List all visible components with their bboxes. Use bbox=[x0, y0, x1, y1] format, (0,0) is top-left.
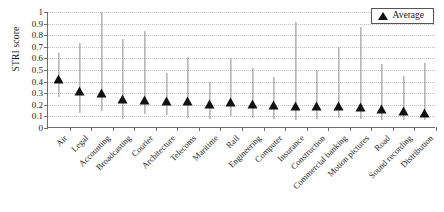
average-marker bbox=[247, 99, 257, 108]
x-axis-tick bbox=[199, 127, 200, 131]
triangle-up-icon bbox=[378, 12, 388, 20]
y-axis-tick-label: 0.3 bbox=[32, 88, 43, 98]
x-axis-tick bbox=[436, 127, 437, 131]
x-axis-tick bbox=[350, 127, 351, 131]
x-axis-tick bbox=[307, 127, 308, 131]
range-whisker bbox=[80, 43, 81, 113]
average-marker bbox=[161, 97, 171, 106]
y-axis-tick bbox=[44, 105, 48, 106]
x-axis-label: Rail bbox=[224, 133, 241, 150]
y-axis-tick bbox=[44, 12, 48, 13]
average-marker bbox=[312, 101, 322, 110]
gridline bbox=[48, 35, 435, 36]
y-axis-title: STRI score bbox=[11, 9, 21, 89]
gridline bbox=[48, 58, 435, 59]
average-marker bbox=[377, 105, 387, 114]
y-axis-tick bbox=[44, 58, 48, 59]
x-axis-tick bbox=[156, 127, 157, 131]
x-axis-tick bbox=[134, 127, 135, 131]
range-whisker bbox=[188, 57, 189, 117]
y-axis-tick bbox=[44, 70, 48, 71]
y-axis-tick-label: 0.2 bbox=[32, 100, 43, 110]
range-whisker bbox=[231, 58, 232, 116]
x-axis-tick bbox=[113, 127, 114, 131]
gridline bbox=[48, 24, 435, 25]
y-axis-tick-label: 0.5 bbox=[32, 65, 43, 75]
y-axis-tick-label: 0.6 bbox=[32, 53, 43, 63]
gridline bbox=[48, 47, 435, 48]
chart-legend: Average bbox=[371, 8, 434, 24]
y-axis-tick-label: 0.1 bbox=[32, 111, 43, 121]
x-axis-tick bbox=[393, 127, 394, 131]
y-axis-tick bbox=[44, 116, 48, 117]
x-axis-tick bbox=[91, 127, 92, 131]
average-marker bbox=[290, 101, 300, 110]
x-axis-tick bbox=[328, 127, 329, 131]
y-axis-tick-label: 0.9 bbox=[32, 19, 43, 29]
y-axis-tick bbox=[44, 47, 48, 48]
y-axis-tick bbox=[44, 82, 48, 83]
average-marker bbox=[269, 100, 279, 109]
average-marker bbox=[355, 103, 365, 112]
average-marker bbox=[334, 101, 344, 110]
average-marker bbox=[96, 89, 106, 98]
average-marker bbox=[118, 95, 128, 104]
y-axis-tick bbox=[44, 24, 48, 25]
gridline bbox=[48, 70, 435, 71]
range-whisker bbox=[166, 73, 167, 115]
x-axis-label: Air bbox=[54, 133, 69, 148]
x-axis-tick bbox=[371, 127, 372, 131]
average-marker bbox=[420, 108, 430, 117]
plot-area: 00.10.20.30.40.50.60.70.80.91 bbox=[47, 12, 435, 128]
x-axis-tick bbox=[220, 127, 221, 131]
range-whisker bbox=[317, 70, 318, 119]
y-axis-tick bbox=[44, 93, 48, 94]
y-axis-tick-label: 0.8 bbox=[32, 30, 43, 40]
x-axis-tick bbox=[177, 127, 178, 131]
gridline bbox=[48, 82, 435, 83]
range-whisker bbox=[252, 68, 253, 118]
x-axis-tick bbox=[414, 127, 415, 131]
x-axis-tick bbox=[285, 127, 286, 131]
average-marker bbox=[53, 75, 63, 84]
average-marker bbox=[183, 97, 193, 106]
y-axis-tick-label: 0.7 bbox=[32, 42, 43, 52]
stri-score-chart: STRI score 00.10.20.30.40.50.60.70.80.91… bbox=[0, 0, 444, 212]
average-marker bbox=[204, 99, 214, 108]
gridline bbox=[48, 116, 435, 117]
average-marker bbox=[398, 106, 408, 115]
y-axis-tick-label: 0.4 bbox=[32, 77, 43, 87]
legend-label-average: Average bbox=[393, 11, 424, 21]
average-marker bbox=[75, 86, 85, 95]
average-marker bbox=[226, 98, 236, 107]
range-whisker bbox=[274, 77, 275, 119]
y-axis-tick-label: 1 bbox=[39, 7, 44, 17]
y-axis-tick-label: 0 bbox=[39, 123, 44, 133]
y-axis-tick bbox=[44, 128, 48, 129]
x-axis-tick bbox=[70, 127, 71, 131]
x-axis-tick bbox=[242, 127, 243, 131]
x-axis-tick bbox=[264, 127, 265, 131]
average-marker bbox=[140, 96, 150, 105]
y-axis-tick bbox=[44, 35, 48, 36]
range-whisker bbox=[123, 39, 124, 119]
